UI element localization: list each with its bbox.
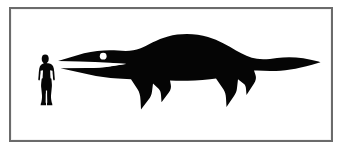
human-left-foot bbox=[41, 103, 47, 106]
silhouette-canvas bbox=[0, 0, 343, 150]
human-scale-figure bbox=[38, 54, 55, 105]
marine-reptile-figure bbox=[58, 34, 321, 110]
human-leg-gap bbox=[46, 91, 47, 104]
human-right-arm-gap bbox=[50, 70, 53, 79]
scale-diagram-container: Size comparison scale diagram bbox=[0, 0, 343, 150]
human-left-arm-gap bbox=[40, 70, 43, 79]
marine-reptile-eye bbox=[100, 53, 107, 60]
human-right-foot bbox=[47, 103, 53, 106]
marine-reptile-body bbox=[58, 34, 321, 110]
